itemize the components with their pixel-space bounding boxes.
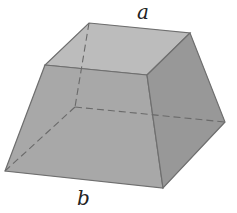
frustum-figure xyxy=(0,0,237,213)
frustum-diagram: a b xyxy=(0,0,237,213)
label-bottom-edge: b xyxy=(77,188,90,208)
front-face xyxy=(5,65,163,188)
label-top-edge: a xyxy=(137,2,149,22)
